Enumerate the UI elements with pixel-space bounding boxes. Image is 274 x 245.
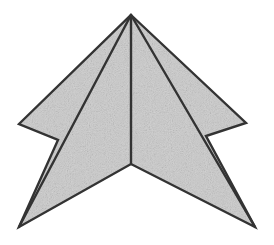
fill-texture (0, 0, 274, 245)
figure-canvas: Shaded arrowhead polygon with internal f… (0, 0, 274, 245)
polygon-figure: Shaded arrowhead polygon with internal f… (0, 0, 274, 245)
